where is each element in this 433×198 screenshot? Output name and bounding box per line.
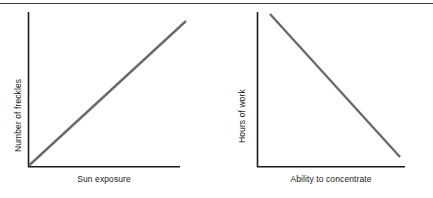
left-trend-line <box>29 21 186 166</box>
left-plot-area <box>0 0 216 198</box>
right-x-axis-label: Ability to concentrate <box>257 175 405 184</box>
right-plot-area <box>216 0 433 198</box>
chart-panel-left: Number of freckles Sun exposure <box>0 0 216 198</box>
right-y-axis-label: Hours of work <box>238 89 247 143</box>
right-trend-line <box>270 14 400 157</box>
chart-panel-right: Hours of work Ability to concentrate <box>216 0 433 198</box>
left-y-axis-label: Number of freckles <box>14 79 23 152</box>
left-x-axis-label: Sun exposure <box>28 175 180 184</box>
figure-container: Number of freckles Sun exposure Hours of… <box>0 0 433 198</box>
